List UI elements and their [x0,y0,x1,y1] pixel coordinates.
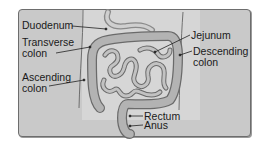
label-descending-colon-line2: colon [193,57,218,68]
label-anus: Anus [144,120,168,131]
label-duodenum: Duodenum [22,20,73,31]
label-transverse-colon-line2: colon [22,48,47,59]
label-ascending-colon-line2: colon [22,83,47,94]
label-jejunum: Jejunum [191,30,231,41]
